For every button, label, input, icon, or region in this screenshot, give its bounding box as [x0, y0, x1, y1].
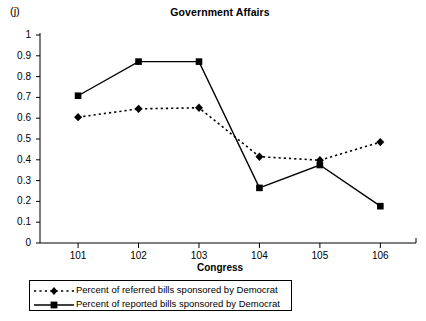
y-tick-label: 0.5 — [5, 134, 31, 144]
data-point-marker — [135, 105, 143, 113]
data-point-marker — [196, 58, 203, 65]
data-point-marker — [377, 203, 384, 210]
x-tick-label: 102 — [109, 251, 169, 261]
series-line-2 — [78, 62, 380, 207]
data-point-marker — [255, 152, 263, 160]
y-tick-label: 0.3 — [5, 176, 31, 186]
legend-label-reported: Percent of reported bills sponsored by D… — [76, 298, 280, 309]
y-tick-label: 1 — [5, 30, 31, 40]
y-tick-label: 0.9 — [5, 51, 31, 61]
chart-figure: (j) Government Affairs 10.90.80.70.60.50… — [0, 0, 426, 321]
x-tick-label: 103 — [169, 251, 229, 261]
legend: Percent of referred bills sponsored by D… — [29, 280, 292, 311]
y-tick-label: 0.2 — [5, 196, 31, 206]
data-point-marker — [256, 185, 263, 192]
y-tick-label: 0.8 — [5, 72, 31, 82]
data-point-marker — [75, 92, 82, 99]
y-tick-label: 0.7 — [5, 92, 31, 102]
data-point-marker — [317, 162, 324, 169]
series-line-1 — [78, 108, 380, 160]
y-tick-label: 0 — [5, 238, 31, 248]
x-axis-title: Congress — [0, 262, 426, 273]
y-tick-label: 0.1 — [5, 217, 31, 227]
x-tick-label: 104 — [229, 251, 289, 261]
y-tick-label: 0.4 — [5, 155, 31, 165]
y-tick-label: 0.6 — [5, 113, 31, 123]
data-point-marker — [135, 58, 142, 65]
data-point-marker — [376, 138, 384, 146]
data-point-marker — [74, 113, 82, 121]
legend-key-dotted-diamond-icon — [33, 283, 75, 295]
legend-label-referred: Percent of referred bills sponsored by D… — [76, 284, 278, 295]
legend-item-reported: Percent of reported bills sponsored by D… — [33, 296, 280, 310]
x-tick-label: 105 — [290, 251, 350, 261]
x-tick-label: 101 — [48, 251, 108, 261]
legend-key-solid-square-icon — [33, 297, 75, 309]
x-tick-label: 106 — [350, 251, 410, 261]
legend-item-referred: Percent of referred bills sponsored by D… — [33, 282, 278, 296]
